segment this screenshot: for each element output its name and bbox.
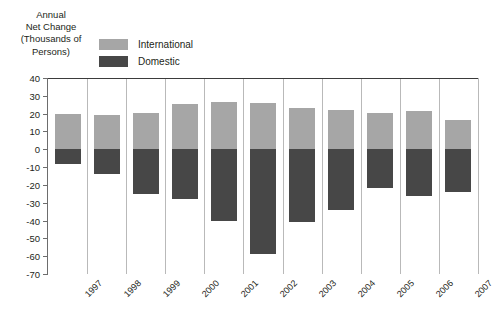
x-axis-label-2005: 2005 [395,278,416,299]
bar-international-2005 [367,113,393,150]
x-axis-label-1999: 1999 [161,278,182,299]
legend-item-domestic: Domestic [99,54,193,69]
y-axis-line [47,78,48,274]
x-axis-label-2001: 2001 [239,278,260,299]
gridline [126,78,127,274]
y-axis-label: -10 [26,162,40,173]
bar-domestic-2005 [367,149,393,188]
y-axis-tick [43,167,48,168]
y-axis-tick [43,131,48,132]
chart-title-line: Net Change [6,21,96,33]
bar-international-2006 [406,111,432,149]
bar-domestic-1999 [133,149,159,194]
y-axis-label: -20 [26,179,40,190]
y-axis-tick [43,238,48,239]
legend-label-domestic: Domestic [138,56,180,67]
y-axis-tick [43,96,48,97]
x-axis-label-1997: 1997 [82,278,103,299]
x-axis-label-2000: 2000 [200,278,221,299]
legend-item-international: International [99,37,193,52]
gridline [243,78,244,274]
y-axis-label: 10 [29,126,40,137]
chart-title-line: Annual [6,9,96,21]
bar-domestic-2000 [172,149,198,199]
y-axis-label: -50 [26,233,40,244]
y-axis-tick [43,221,48,222]
gridline [283,78,284,274]
y-axis-label: -70 [26,269,40,280]
y-axis-tick [43,256,48,257]
zero-baseline [48,78,478,79]
y-axis-label: 30 [29,90,40,101]
gridline [87,78,88,274]
bar-domestic-2006 [406,149,432,195]
y-axis-label: 40 [29,73,40,84]
bar-international-2001 [211,102,237,149]
y-axis-tick [43,203,48,204]
gridline [165,78,166,274]
bar-international-2002 [250,103,276,149]
chart-plot-area: 403020100-10-20-30-40-50-60-70 199719981… [48,78,478,274]
y-axis-tick [43,149,48,150]
gridline [361,78,362,274]
x-axis-label-2006: 2006 [434,278,455,299]
bar-international-2003 [289,108,315,149]
bar-international-1999 [133,113,159,150]
chart-legend: International Domestic [99,37,193,71]
bar-domestic-1998 [94,149,120,174]
y-axis-tick [43,274,48,275]
chart-title: Annual Net Change (Thousands of Persons) [6,9,96,58]
gridline [322,78,323,274]
bar-international-2007 [445,120,471,149]
bar-domestic-2001 [211,149,237,221]
legend-swatch-domestic-icon [99,56,128,67]
gridline [204,78,205,274]
bar-domestic-2002 [250,149,276,254]
y-axis-label: -60 [26,251,40,262]
gridline [439,78,440,274]
bar-domestic-2007 [445,149,471,192]
gridline [400,78,401,274]
legend-swatch-international-icon [99,39,128,50]
chart-title-line: (Thousands of [6,33,96,45]
y-axis-tick [43,114,48,115]
bar-domestic-2003 [289,149,315,222]
x-axis-label-2004: 2004 [356,278,377,299]
bar-international-1997 [55,114,81,150]
x-axis-label-2003: 2003 [317,278,338,299]
bar-international-2000 [172,104,198,149]
y-axis-label: -40 [26,215,40,226]
legend-label-international: International [138,39,193,50]
chart-title-line: Persons) [6,46,96,58]
y-axis-label: -30 [26,197,40,208]
x-axis-label-1998: 1998 [121,278,142,299]
y-axis-label: 20 [29,108,40,119]
bar-international-1998 [94,115,120,149]
y-axis-tick [43,185,48,186]
x-axis-label-2007: 2007 [473,278,494,299]
gridline [478,78,479,274]
bar-domestic-1997 [55,149,81,163]
y-axis-label: 0 [35,144,40,155]
bar-international-2004 [328,110,354,149]
x-axis-label-2002: 2002 [278,278,299,299]
bar-domestic-2004 [328,149,354,210]
